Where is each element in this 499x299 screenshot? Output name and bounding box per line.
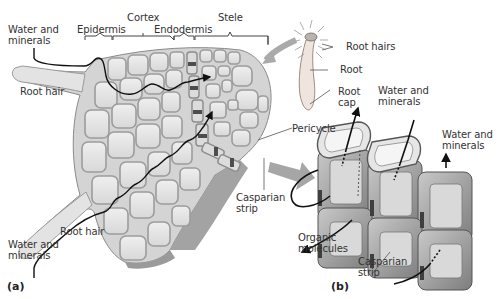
label-line: Water and [8, 239, 59, 250]
panel-label-a: (a) [7, 280, 24, 293]
label-casparian-strip-b: Casparian strip [358, 256, 407, 278]
label-line: strip [358, 267, 407, 278]
label-line: Root [338, 86, 360, 97]
label-root-hair-top: Root hair [20, 86, 64, 97]
label-cortex: Cortex [127, 12, 159, 23]
label-line: Casparian [358, 256, 407, 267]
label-line: Organic [298, 232, 348, 243]
panel-label-b: (b) [331, 280, 349, 293]
label-line: Casparian [236, 192, 285, 203]
label-line: Water and [442, 129, 493, 140]
root-tissue-wedge [12, 48, 271, 269]
label-line: strip [236, 203, 285, 214]
label-water-minerals-bottomleft: Water and minerals [8, 239, 59, 261]
label-epidermis: Epidermis [77, 24, 126, 35]
label-water-minerals-b2: Water and minerals [442, 129, 493, 151]
label-root: Root [340, 64, 362, 75]
zoom-arrow [268, 162, 315, 190]
label-line: molecules [298, 243, 348, 254]
label-root-cap: Root cap [338, 86, 360, 108]
label-line: minerals [442, 140, 493, 151]
label-stele: Stele [218, 12, 243, 23]
label-casparian-strip-a: Casparian strip [236, 192, 285, 214]
label-line: minerals [378, 96, 429, 107]
label-water-minerals-topleft: Water and minerals [8, 24, 59, 46]
root-cross-section-diagram [0, 0, 499, 299]
label-line: minerals [8, 35, 59, 46]
label-root-hairs: Root hairs [346, 41, 395, 52]
label-line: Water and [378, 85, 429, 96]
label-water-minerals-b1: Water and minerals [378, 85, 429, 107]
label-line: minerals [8, 250, 59, 261]
label-endodermis: Endodermis [154, 24, 212, 35]
label-line: Water and [8, 24, 59, 35]
label-root-hair-bottom: Root hair [60, 226, 104, 237]
label-pericycle: Pericycle [292, 123, 336, 134]
label-organic-molecules: Organic molecules [298, 232, 348, 254]
label-line: cap [338, 97, 360, 108]
